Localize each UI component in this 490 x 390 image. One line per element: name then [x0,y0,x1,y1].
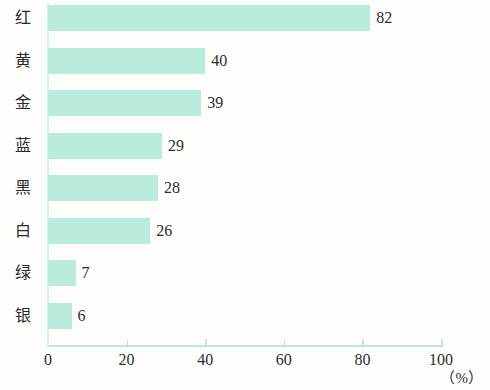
bar-value-label: 40 [211,48,227,74]
bar-value-label: 39 [207,90,223,116]
bar [48,5,370,31]
bar-value-label: 26 [156,218,172,244]
x-axis-tick [362,339,364,346]
bar-value-label: 82 [376,5,392,31]
category-label: 绿 [6,260,40,286]
bar [48,303,72,329]
bar-value-label: 7 [82,260,90,286]
bar [48,48,205,74]
category-label: 蓝 [6,133,40,159]
category-label: 金 [6,90,40,116]
x-axis-tick-label: 60 [264,350,304,370]
bar [48,90,201,116]
x-axis-tick [441,339,443,346]
x-axis-tick [127,339,129,346]
bar [48,175,158,201]
x-axis-tick-label: 80 [342,350,382,370]
bar [48,260,76,286]
bar-value-label: 29 [168,133,184,159]
x-axis-line [47,345,443,347]
category-label: 银 [6,303,40,329]
x-axis-tick-label: 100 [421,350,461,370]
bar [48,133,162,159]
x-axis-tick-label: 40 [185,350,225,370]
plot-area: 红82黄40金39蓝29黑28白26绿7银6 020406080100 （%） [0,0,490,390]
bar-value-label: 6 [78,303,86,329]
category-label: 黄 [6,48,40,74]
x-axis-tick [284,339,286,346]
category-label: 红 [6,5,40,31]
x-axis-tick-label: 0 [28,350,68,370]
x-axis-tick-label: 20 [107,350,147,370]
category-label: 黑 [6,175,40,201]
bar-value-label: 28 [164,175,180,201]
x-axis-unit-label: （%） [440,369,484,387]
category-label: 白 [6,218,40,244]
x-axis-tick [205,339,207,346]
bar-chart: 红82黄40金39蓝29黑28白26绿7银6 020406080100 （%） [0,0,490,390]
bar [48,218,150,244]
